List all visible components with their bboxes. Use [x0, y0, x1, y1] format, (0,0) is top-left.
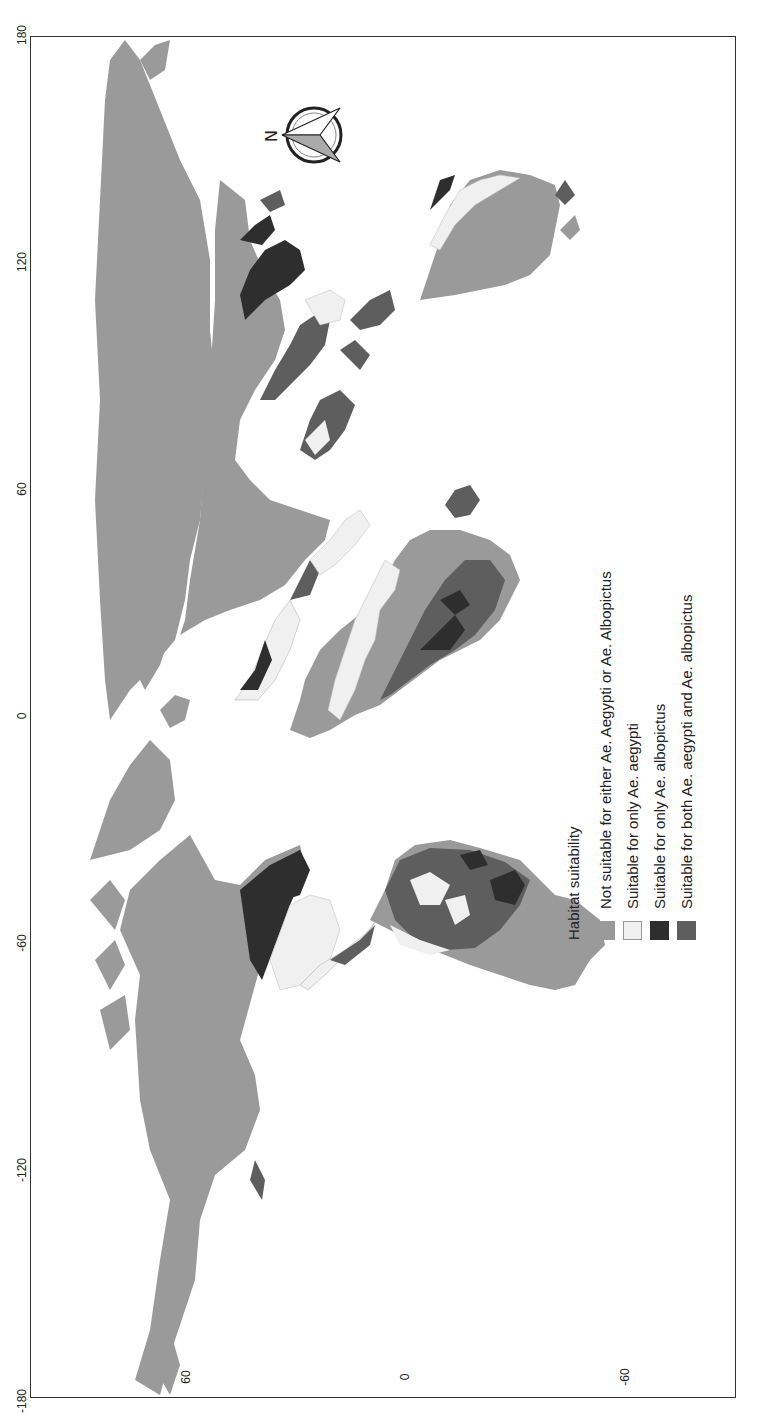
legend-label: Suitable for both Ae. aegypti and Ae. al…: [678, 595, 695, 909]
lat-tick-0: 0: [398, 1357, 412, 1397]
north-arrow-compass: N: [262, 90, 352, 180]
lon-tick-minus-180: -180: [15, 1381, 29, 1421]
lat-tick-minus-60: -60: [618, 1357, 632, 1397]
legend-swatch: [677, 921, 696, 940]
lon-tick-120: 120: [15, 242, 29, 282]
north-label: N: [262, 130, 281, 142]
lon-tick-60: 60: [15, 469, 29, 509]
legend-item-only-albopictus: Suitable for only Ae. albopictus: [649, 704, 669, 940]
lon-tick-minus-60: -60: [15, 923, 29, 963]
legend-item-both: Suitable for both Ae. aegypti and Ae. al…: [676, 595, 696, 940]
north-america: [90, 740, 340, 1395]
lat-tick-60: 60: [179, 1357, 193, 1397]
lon-tick-0: 0: [15, 696, 29, 736]
legend-item-only-aegypti: Suitable for only Ae. aegypti: [622, 723, 642, 940]
legend-label: Suitable for only Ae. albopictus: [651, 704, 668, 909]
lon-tick-minus-120: -120: [15, 1150, 29, 1190]
legend-label: Suitable for only Ae. aegypti: [624, 723, 641, 909]
lon-tick-180: 180: [15, 15, 29, 55]
australia: [420, 170, 580, 300]
legend-swatch: [596, 921, 615, 940]
legend-item-not-suitable: Not suitable for either Ae. Aegypti or A…: [595, 571, 615, 940]
legend-title: Habitat suitability: [565, 827, 582, 940]
legend-swatch: [650, 921, 669, 940]
legend: Habitat suitability Not suitable for eit…: [557, 300, 732, 1000]
legend-swatch: [623, 921, 642, 940]
legend-label: Not suitable for either Ae. Aegypti or A…: [597, 571, 614, 909]
